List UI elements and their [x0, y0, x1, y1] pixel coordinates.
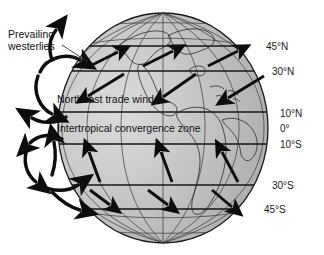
latitude-label-45s: 45°S [264, 204, 286, 215]
prevailing-westerlies-line1: Prevailing [8, 28, 55, 40]
intertropical-convergence-zone-label: Intertropical convergence zone [57, 122, 201, 134]
cell-arc [52, 142, 55, 175]
northeast-trade-winds-label: Northeast trade winds [57, 93, 159, 105]
wind-circulation-figure: 45°N 30°N 10°N 0° 10°S 30°S 45°S Prevail… [0, 0, 324, 255]
cell-arc [30, 136, 62, 143]
cell-arc [25, 147, 36, 182]
cell-arc [36, 76, 52, 114]
prevailing-westerlies-line2: westerlies [8, 40, 55, 52]
cell-arc [52, 192, 80, 210]
prevailing-westerlies-callout: Prevailing westerlies [8, 28, 55, 52]
latitude-label-10s: 10°S [280, 139, 302, 150]
latitude-label-30n: 30°N [272, 66, 294, 77]
latitude-label-45n: 45°N [266, 41, 288, 52]
latitude-label-10n: 10°N [280, 108, 302, 119]
latitude-label-30s: 30°S [272, 180, 294, 191]
latitude-label-0: 0° [280, 123, 290, 134]
